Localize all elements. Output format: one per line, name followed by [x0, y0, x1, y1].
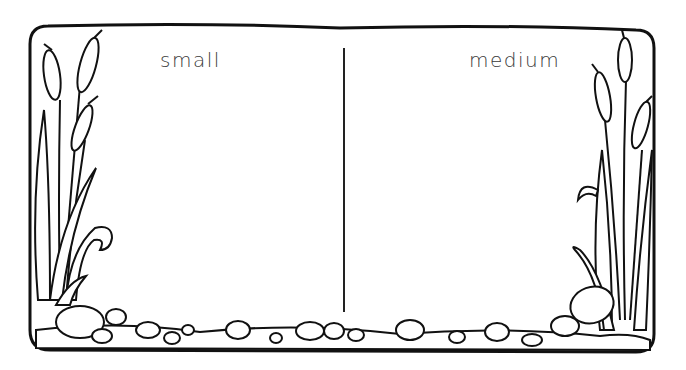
column-label-small: small	[160, 48, 221, 72]
right-cattails-icon	[573, 30, 654, 330]
column-label-medium: medium	[469, 48, 560, 72]
left-cattails-icon	[35, 30, 112, 305]
column-divider	[343, 48, 345, 312]
frame-outline	[30, 24, 654, 352]
